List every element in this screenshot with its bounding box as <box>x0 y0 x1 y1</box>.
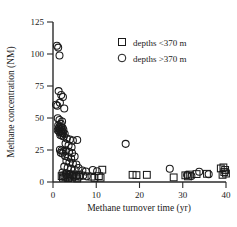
x-tick-label: 10 <box>92 190 102 200</box>
scatter-plot-figure: 0255075100125 010203040 Methane turnover… <box>0 0 237 227</box>
y-tick-label: 25 <box>35 145 45 155</box>
y-tick-label: 125 <box>31 17 45 27</box>
plot-canvas: 0255075100125 010203040 Methane turnover… <box>0 0 237 227</box>
x-tick-label: 20 <box>135 190 145 200</box>
y-axis-title: Methane concentration (NM) <box>6 46 17 157</box>
legend-label-shallow: depths <370 m <box>133 38 187 48</box>
x-tick-label: 30 <box>178 190 188 200</box>
x-axis-title: Methane turnover time (yr) <box>87 203 191 214</box>
x-tick-label: 40 <box>222 190 232 200</box>
legend-label-deep: depths >370 m <box>133 54 187 64</box>
y-tick-label: 0 <box>40 177 45 187</box>
y-tick-label: 100 <box>31 49 45 59</box>
x-tick-label: 0 <box>51 190 56 200</box>
y-tick-label: 75 <box>35 81 45 91</box>
y-tick-label: 50 <box>35 113 45 123</box>
